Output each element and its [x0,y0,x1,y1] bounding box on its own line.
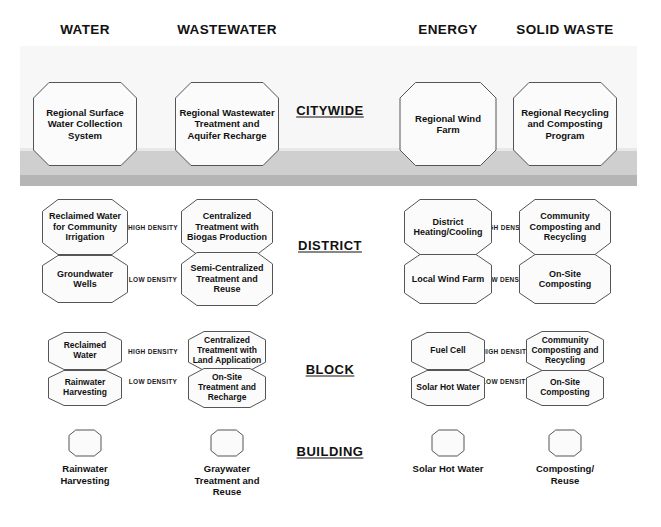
strategy-node[interactable]: Reclaimed Water for Community Irrigation [42,199,128,255]
strategy-node[interactable]: District Heating/Cooling [404,199,492,255]
node-label: On-Site Composting [519,254,611,304]
strategy-node[interactable]: Solar Hot Water [411,370,485,406]
column-header: WASTEWATER [177,22,277,37]
strategy-node[interactable]: Fuel Cell [411,332,485,370]
density-label: HIGH DENSITY [128,348,178,355]
strategy-node[interactable]: On-Site Composting [526,370,604,406]
strategy-node[interactable]: Centralized Treatment with Biogas Produc… [181,199,273,255]
column-header: WATER [60,22,110,37]
strategy-node[interactable]: Centralized Treatment with Land Applicat… [188,331,266,371]
strategy-node-building[interactable] [211,430,244,457]
node-label: Local Wind Farm [404,254,492,304]
node-label: Semi-Centralized Treatment and Reuse [181,252,273,306]
column-headers: WATERWASTEWATERENERGYSOLID WASTE [0,0,661,46]
density-label: LOW DENSITY [482,378,530,385]
density-label: LOW DENSITY [129,378,177,385]
level-label-district: DISTRICT [298,238,362,253]
strategy-node[interactable]: Local Wind Farm [404,254,492,304]
node-label: Centralized Treatment with Biogas Produc… [181,199,273,255]
node-label: On-Site Composting [526,370,604,406]
strategy-node-building[interactable] [69,430,102,457]
level-label-building: BUILDING [297,444,364,459]
strategy-node-building[interactable] [549,430,582,457]
strategy-node[interactable]: Groundwater Wells [42,255,128,303]
strategy-node[interactable]: Rainwater Harvesting [48,370,122,406]
strategy-node[interactable]: On-Site Composting [519,254,611,304]
node-label: Community Composting and Recycling [526,331,604,371]
column-header: ENERGY [418,22,477,37]
node-label: Solar Hot Water [411,370,485,406]
node-label: Regional Wastewater Treatment and Aquife… [175,82,279,166]
strategy-node[interactable]: Regional Surface Water Collection System [33,82,137,166]
node-label: Community Composting and Recycling [519,199,611,255]
density-label: HIGH DENSITY [481,348,531,355]
node-label: Groundwater Wells [42,255,128,303]
node-caption: Graywater Treatment and Reuse [195,463,260,498]
node-label: District Heating/Cooling [404,199,492,255]
node-label: Fuel Cell [411,332,485,370]
node-caption: Composting/ Reuse [536,463,594,486]
strategy-node[interactable]: Community Composting and Recycling [519,199,611,255]
node-caption: Solar Hot Water [413,463,484,475]
node-label: Regional Recycling and Composting Progra… [513,82,617,166]
node-label: Rainwater Harvesting [48,370,122,406]
strategy-node[interactable]: Community Composting and Recycling [526,331,604,371]
level-label-block: BLOCK [306,362,355,377]
strategy-node[interactable]: Regional Wind Farm [400,82,497,166]
node-label: Regional Surface Water Collection System [33,82,137,166]
strategy-node[interactable]: On-Site Treatment and Recharge [188,368,266,408]
density-label: LOW DENSITY [129,276,177,283]
node-label: Regional Wind Farm [400,82,497,166]
node-label: Centralized Treatment with Land Applicat… [188,331,266,371]
node-caption: Rainwater Harvesting [60,463,109,486]
column-header: SOLID WASTE [516,22,613,37]
density-label: HIGH DENSITY [128,224,178,231]
level-label-citywide: CITYWIDE [296,103,364,118]
node-label: Reclaimed Water for Community Irrigation [42,199,128,255]
strategy-node[interactable]: Regional Wastewater Treatment and Aquife… [175,82,279,166]
strategy-node[interactable]: Regional Recycling and Composting Progra… [513,82,617,166]
strategy-node[interactable]: Semi-Centralized Treatment and Reuse [181,252,273,306]
strategy-node[interactable]: Reclaimed Water [48,332,122,370]
node-label: Reclaimed Water [48,332,122,370]
strategy-node-building[interactable] [432,430,465,457]
node-label: On-Site Treatment and Recharge [188,368,266,408]
